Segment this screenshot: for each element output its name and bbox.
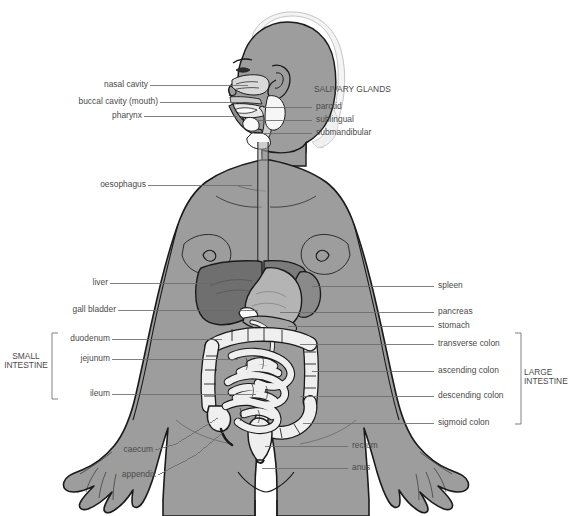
label-liver: liver [60,278,108,287]
anatomy-illustration [0,0,570,516]
label-nasal-cavity: nasal cavity [60,80,148,89]
label-gall-bladder: gall bladder [50,305,116,314]
heading-salivary-glands: SALIVARY GLANDS [314,85,391,94]
label-ascending-colon: ascending colon [438,366,499,375]
label-jejunum: jejunum [58,354,110,363]
sublingual-gland [243,117,259,131]
label-ileum: ileum [70,389,110,398]
label-parotid: parotid [316,102,342,111]
label-descending-colon: descending colon [438,391,504,400]
label-oesophagus: oesophagus [60,180,146,189]
label-stomach: stomach [438,321,470,330]
bracket-label-large-intestine: LARGE INTESTINE [524,368,570,387]
label-pancreas: pancreas [438,307,473,316]
label-submandibular: submandibular [316,128,371,137]
label-buccal-cavity: buccal cavity (mouth) [40,97,158,106]
label-sublingual: sublingual [316,115,354,124]
label-caecum: caecum [108,445,153,454]
label-pharynx: pharynx [60,111,142,120]
label-spleen: spleen [438,281,463,290]
label-anus: anus [352,463,370,472]
digestive-system-diagram: nasal cavity buccal cavity (mouth) phary… [0,0,570,516]
label-transverse-colon: transverse colon [438,339,500,348]
small-intestine-line2: INTESTINE [2,361,50,370]
large-intestine-line2: INTESTINE [524,377,570,386]
bracket-label-small-intestine: SMALL INTESTINE [2,352,50,371]
bracket-large-intestine [515,333,521,424]
label-sigmoid-colon: sigmoid colon [438,418,489,427]
oesophagus-organ [258,142,268,270]
label-duodenum: duodenum [52,334,110,343]
parotid-gland [265,96,285,131]
label-appendix: appendix [104,470,156,479]
label-rectum: rectum [352,441,378,450]
